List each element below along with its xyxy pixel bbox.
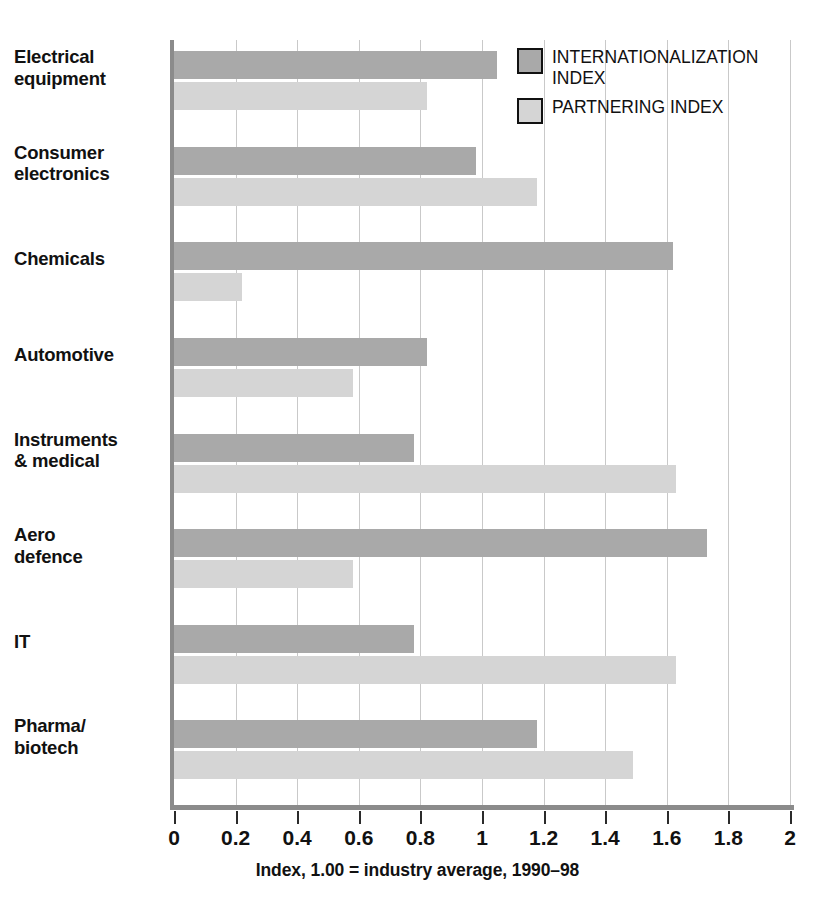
- bar-group: [174, 242, 790, 301]
- category-label-line: IT: [14, 631, 174, 653]
- category-label: Automotive: [14, 344, 174, 366]
- bar-group: [174, 434, 790, 493]
- bar: [174, 338, 427, 366]
- legend-swatch-internationalization: [517, 48, 543, 74]
- x-tick: [790, 811, 792, 824]
- legend-entry[interactable]: INTERNATIONALIZATION INDEX: [517, 47, 817, 88]
- bar: [174, 51, 497, 79]
- category-label-line: Automotive: [14, 344, 174, 366]
- category-axis-labels: ElectricalequipmentConsumerelectronicsCh…: [14, 40, 174, 805]
- x-tick: [236, 811, 238, 824]
- x-tick: [297, 811, 299, 824]
- gridline: [790, 40, 791, 805]
- x-tick-label: 1.2: [514, 826, 574, 850]
- bar-chart: ElectricalequipmentConsumerelectronicsCh…: [0, 0, 835, 898]
- category-label-line: Pharma/: [14, 715, 174, 737]
- bar-group: [174, 338, 790, 397]
- bar: [174, 529, 707, 557]
- category-label: Consumerelectronics: [14, 142, 174, 185]
- x-tick-label: 1.4: [575, 826, 635, 850]
- bar: [174, 369, 353, 397]
- bar-group: [174, 625, 790, 684]
- bar: [174, 147, 476, 175]
- category-label: Chemicals: [14, 248, 174, 270]
- x-tick-label: 0.6: [329, 826, 389, 850]
- x-tick-label: 2: [760, 826, 820, 850]
- x-tick: [359, 811, 361, 824]
- x-tick-label: 1.6: [637, 826, 697, 850]
- x-tick: [544, 811, 546, 824]
- x-axis-title: Index, 1.00 = industry average, 1990–98: [0, 860, 835, 881]
- bar: [174, 178, 537, 206]
- x-tick-label: 1.8: [698, 826, 758, 850]
- bar-group: [174, 147, 790, 206]
- x-tick-label: 1: [452, 826, 512, 850]
- category-label-line: Electrical: [14, 46, 174, 68]
- x-tick-label: 0: [144, 826, 204, 850]
- bar: [174, 242, 673, 270]
- bar: [174, 273, 242, 301]
- bar: [174, 465, 676, 493]
- plot-area: [174, 40, 790, 805]
- x-tick: [420, 811, 422, 824]
- x-tick: [482, 811, 484, 824]
- category-label-line: equipment: [14, 68, 174, 90]
- x-tick-label: 0.8: [390, 826, 450, 850]
- category-label-line: biotech: [14, 737, 174, 759]
- category-label: Pharma/biotech: [14, 715, 174, 758]
- bar: [174, 434, 414, 462]
- x-tick: [174, 811, 176, 824]
- category-label: Aerodefence: [14, 524, 174, 567]
- x-tick: [605, 811, 607, 824]
- bar: [174, 751, 633, 779]
- category-label: IT: [14, 631, 174, 653]
- bar: [174, 82, 427, 110]
- chart-legend: INTERNATIONALIZATION INDEXPARTNERING IND…: [517, 47, 817, 133]
- category-label-line: Consumer: [14, 142, 174, 164]
- x-tick: [667, 811, 669, 824]
- bar-group: [174, 529, 790, 588]
- category-label-line: electronics: [14, 163, 174, 185]
- legend-swatch-partnering: [517, 98, 543, 124]
- category-label-line: Aero: [14, 524, 174, 546]
- legend-label: INTERNATIONALIZATION INDEX: [552, 47, 758, 88]
- category-label-line: Instruments: [14, 429, 174, 451]
- bar-group: [174, 720, 790, 779]
- category-label-line: defence: [14, 546, 174, 568]
- bar: [174, 656, 676, 684]
- bar: [174, 625, 414, 653]
- x-tick: [728, 811, 730, 824]
- x-tick-label: 0.4: [267, 826, 327, 850]
- bar: [174, 720, 537, 748]
- legend-entry[interactable]: PARTNERING INDEX: [517, 97, 817, 124]
- category-label: Electricalequipment: [14, 46, 174, 89]
- bar: [174, 560, 353, 588]
- legend-label: PARTNERING INDEX: [552, 97, 723, 118]
- category-label-line: Chemicals: [14, 248, 174, 270]
- x-axis-line: [170, 805, 794, 810]
- category-label-line: & medical: [14, 450, 174, 472]
- category-label: Instruments& medical: [14, 429, 174, 472]
- x-tick-label: 0.2: [206, 826, 266, 850]
